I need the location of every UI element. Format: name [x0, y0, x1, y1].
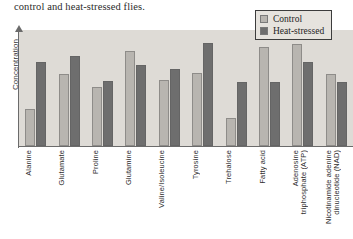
bar-control [25, 109, 35, 146]
x-tick-label: Fatty acid [259, 150, 267, 236]
legend-label: Heat-stressed [273, 26, 324, 36]
bar-control [59, 74, 69, 146]
bar-group [125, 30, 146, 146]
bar-heat-stressed [136, 65, 146, 146]
x-tick-label-line: Glutamine [125, 150, 133, 185]
figure-caption: control and heat-stressed flies. [14, 1, 145, 12]
bar-control [159, 80, 169, 146]
x-tick-label: Nicotinamide adeninedinucleotide (NAD) [325, 150, 341, 236]
legend-swatch-icon [260, 15, 268, 23]
bar-group [192, 30, 213, 146]
legend-label: Control [273, 14, 302, 24]
x-tick-label: Glutamate [58, 150, 66, 236]
x-tick-label-line: dinucleotide (NAD) [333, 150, 341, 215]
bar-group [159, 30, 180, 146]
x-tick-label: Tyrosine [192, 150, 200, 236]
bar-control [192, 73, 202, 146]
bar-control [92, 87, 102, 146]
bar-heat-stressed [237, 82, 247, 146]
x-tick-label: Adenosinetriphosphate (ATP) [292, 150, 308, 236]
bar-control [226, 118, 236, 146]
x-tick-label-line: Glutamate [58, 150, 66, 185]
bar-heat-stressed [170, 69, 180, 146]
x-tick-label: Trehalose [225, 150, 233, 236]
bar-heat-stressed [203, 43, 213, 146]
x-tick-label-line: Alanine [25, 150, 33, 176]
bar-group [25, 30, 46, 146]
bar-heat-stressed [36, 62, 46, 146]
x-tick-label-line: Tyrosine [192, 150, 200, 179]
legend-item: Control [260, 14, 324, 24]
x-tick-label-line: Valine/Isoleucine [158, 150, 166, 208]
x-tick-label-line: Trehalose [225, 150, 233, 184]
x-tick-label-line: Fatty acid [259, 150, 267, 184]
bar-control [259, 47, 269, 146]
bar-group [59, 30, 80, 146]
x-tick-label-line: Proline [92, 150, 100, 174]
bar-group [326, 30, 347, 146]
bar-group [226, 30, 247, 146]
bar-heat-stressed [270, 82, 280, 146]
legend-swatch-icon [260, 27, 268, 35]
bar-control [292, 44, 302, 146]
legend-item: Heat-stressed [260, 26, 324, 36]
x-tick-label: Valine/Isoleucine [158, 150, 166, 236]
chart-legend: ControlHeat-stressed [255, 10, 332, 40]
bar-group [292, 30, 313, 146]
x-tick-label: Proline [92, 150, 100, 236]
bar-heat-stressed [103, 81, 113, 146]
x-tick-label-line: triphosphate (ATP) [300, 150, 308, 214]
x-axis-line [19, 146, 353, 147]
x-tick-label: Glutamine [125, 150, 133, 236]
bar-heat-stressed [303, 62, 313, 146]
x-tick-label: Alanine [25, 150, 33, 236]
bar-heat-stressed [70, 56, 80, 146]
bar-heat-stressed [337, 82, 347, 146]
bar-group [259, 30, 280, 146]
bar-control [125, 51, 135, 146]
bar-group [92, 30, 113, 146]
bar-control [326, 74, 336, 146]
y-axis-label: Concentration [11, 25, 20, 105]
figure-container: control and heat-stressed flies. Concent… [0, 0, 353, 239]
